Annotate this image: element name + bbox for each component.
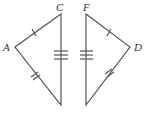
label-D: D: [134, 42, 142, 53]
triangles-svg: [0, 0, 145, 113]
congruent-triangles-diagram: A C F D: [0, 0, 145, 113]
label-C: C: [56, 2, 63, 13]
label-F: F: [83, 2, 90, 13]
label-A: A: [3, 42, 10, 53]
